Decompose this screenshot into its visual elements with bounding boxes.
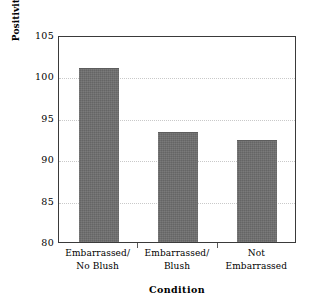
- x-tick-label-line-2: Embarrassed: [217, 260, 296, 273]
- x-tick-label-line-2: Blush: [137, 260, 216, 273]
- x-tick-label: Embarrassed/No Blush: [58, 247, 137, 279]
- x-tick-label-line-1: Not: [248, 248, 265, 258]
- bar-chart-figure: Positivity of Self-Presentation 10510095…: [0, 0, 315, 304]
- bar: [79, 68, 119, 242]
- y-tick-label: 100: [20, 72, 54, 82]
- x-tick-label: Embarrassed/Blush: [137, 247, 216, 279]
- bar: [237, 140, 277, 242]
- x-tick-label: NotEmbarrassed: [217, 247, 296, 279]
- x-axis-tick-labels: Embarrassed/No BlushEmbarrassed/BlushNot…: [58, 247, 296, 279]
- y-axis-tick-labels: 10510095908580: [16, 36, 54, 243]
- x-axis-title: Condition: [58, 284, 296, 295]
- y-tick-label: 105: [20, 31, 54, 41]
- x-tick-label-line-1: Embarrassed/: [145, 248, 210, 258]
- x-tick-label-line-2: No Blush: [58, 260, 137, 273]
- x-tick-label-line-1: Embarrassed/: [65, 248, 130, 258]
- y-tick-label: 95: [20, 114, 54, 124]
- y-tick-label: 90: [20, 155, 54, 165]
- bar: [158, 132, 198, 242]
- plot-inner: [59, 37, 295, 242]
- plot-area: [58, 36, 296, 243]
- y-tick-label: 80: [20, 238, 54, 248]
- y-tick-label: 85: [20, 197, 54, 207]
